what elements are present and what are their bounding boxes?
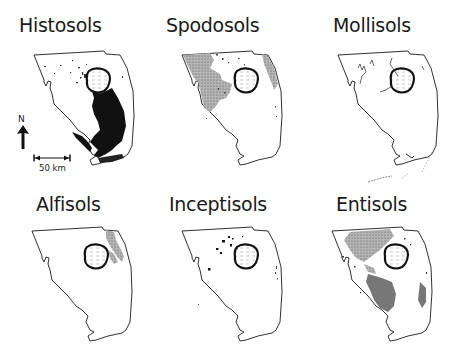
panel-inceptisols: Inceptisols xyxy=(150,178,302,355)
map-entisols xyxy=(330,222,440,347)
panel-mollisols: Mollisols xyxy=(300,0,452,177)
map-spodosols xyxy=(180,46,290,171)
panel-spodosols: Spodosols xyxy=(150,0,302,177)
scale-bar-icon xyxy=(33,154,71,162)
north-arrow: N xyxy=(14,114,34,148)
spodosols-area xyxy=(183,53,232,112)
panel-title: Entisols xyxy=(336,193,407,215)
map-inceptisols xyxy=(180,222,290,347)
north-label: N xyxy=(18,114,25,124)
panel-title: Mollisols xyxy=(333,14,411,36)
panel-alfisols: Alfisols Pine xyxy=(0,178,152,355)
panel-title: Alfisols xyxy=(36,193,101,215)
panel-title: Histosols xyxy=(19,14,102,36)
map-histosols xyxy=(32,46,142,171)
histosols-area xyxy=(90,88,126,158)
panel-title: Spodosols xyxy=(166,14,259,36)
panel-histosols: Histosols N 50 km xyxy=(0,0,152,177)
entisols-area-southwest xyxy=(366,274,396,312)
panel-title: Inceptisols xyxy=(169,193,267,215)
panel-entisols: Entisols xyxy=(300,178,452,355)
scale-bar: 50 km xyxy=(33,154,73,176)
scale-label: 50 km xyxy=(39,163,66,173)
map-alfisols xyxy=(30,222,140,347)
north-arrow-icon xyxy=(15,125,31,149)
